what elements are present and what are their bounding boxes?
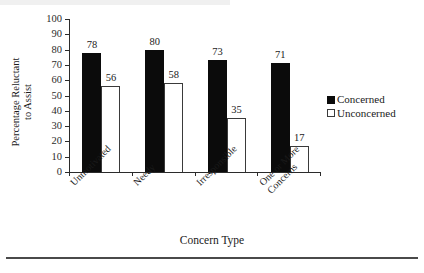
bar-value-label: 17	[284, 133, 315, 144]
y-axis-title-line-1: Percentage Reluctant	[10, 58, 22, 147]
y-axis-tick-label: 80	[52, 45, 63, 56]
y-axis-tick	[65, 80, 69, 81]
bar-concerned	[145, 50, 164, 172]
bar-value-label: 73	[202, 47, 233, 58]
bar-value-label: 35	[221, 105, 252, 116]
bar-value-label: 78	[76, 40, 107, 51]
bar-value-label: 80	[139, 37, 170, 48]
chart-legend: Concerned Unconcerned	[327, 93, 396, 120]
x-axis-tick	[132, 172, 133, 176]
y-axis-tick	[65, 157, 69, 158]
y-axis-tick	[65, 96, 69, 97]
y-axis-tick-label: 100	[46, 14, 62, 25]
figure-bottom-rule	[6, 257, 418, 259]
figure-bar-chart: Percentage Reluctant to Assist 010203040…	[0, 0, 424, 273]
y-axis-tick-label: 60	[52, 75, 63, 86]
y-axis-tick-label: 20	[52, 136, 63, 147]
y-axis-tick-label: 70	[52, 60, 63, 71]
y-axis-tick-label: 0	[57, 167, 62, 178]
y-axis-title-line-2: to Assist	[22, 84, 34, 120]
bar-value-label: 58	[158, 70, 189, 81]
legend-swatch-unconcerned-icon	[327, 109, 335, 117]
y-axis-tick	[65, 111, 69, 112]
y-axis-tick-label: 30	[52, 121, 63, 132]
legend-swatch-concerned-icon	[327, 96, 335, 104]
y-axis-title: Percentage Reluctant to Assist	[10, 34, 34, 170]
x-axis-title: Concern Type	[0, 234, 424, 246]
legend-item-concerned: Concerned	[327, 93, 396, 107]
bar-value-label: 71	[265, 50, 296, 61]
y-axis-tick-label: 40	[52, 106, 63, 117]
scan-artifact-band	[0, 0, 230, 5]
bar-value-label: 56	[95, 73, 126, 84]
y-axis-tick	[65, 126, 69, 127]
y-axis-tick	[65, 50, 69, 51]
y-axis-tick	[65, 19, 69, 20]
x-axis-tick	[195, 172, 196, 176]
legend-item-unconcerned: Unconcerned	[327, 107, 396, 121]
bar-unconcerned	[164, 83, 183, 172]
x-axis-tick	[257, 172, 258, 176]
y-axis-tick	[65, 65, 69, 66]
legend-label-unconcerned: Unconcerned	[337, 107, 396, 121]
y-axis-tick-label: 10	[52, 152, 63, 163]
x-axis-tick	[69, 172, 70, 176]
y-axis-tick-label: 90	[52, 29, 63, 40]
legend-label-concerned: Concerned	[337, 93, 385, 107]
x-axis-tick	[320, 172, 321, 176]
y-axis-tick	[65, 141, 69, 142]
y-axis-line	[69, 19, 70, 172]
y-axis-tick	[65, 34, 69, 35]
y-axis-tick-label: 50	[52, 91, 63, 102]
